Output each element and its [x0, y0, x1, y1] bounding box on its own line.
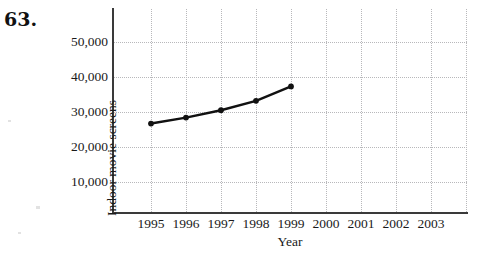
data-point: [148, 121, 154, 127]
data-point: [218, 107, 224, 113]
data-point: [183, 115, 189, 121]
data-series-layer: [0, 0, 479, 256]
series-line: [151, 86, 291, 123]
chart-figure: 63. 50,000 40,000 30,000 20,000 10,000 1…: [0, 0, 479, 256]
data-point: [253, 98, 259, 104]
data-point: [288, 84, 294, 90]
